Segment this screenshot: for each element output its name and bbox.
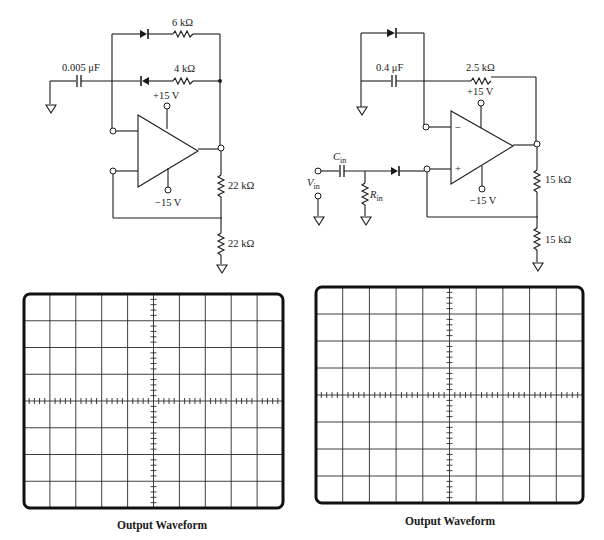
label-plus15-r: +15 V [467, 86, 494, 97]
diode-icon [387, 28, 396, 38]
right-circuit: 0.4 μF 2.5 kΩ − + +15 V −15 V 15 kΩ 15 k… [307, 28, 571, 271]
label-minus15-r: −15 V [470, 195, 497, 206]
label-rin: Rin [369, 189, 383, 203]
left-circuit: 6 kΩ 0.005 μF 4 kΩ +15 V −15 V [46, 17, 254, 273]
figure: 6 kΩ 0.005 μF 4 kΩ +15 V −15 V [0, 0, 604, 540]
resistor-15k-icon [534, 228, 540, 250]
label-plus15: +15 V [153, 90, 180, 101]
label-15k-top: 15 kΩ [545, 174, 571, 185]
caption-right: Output Waveform [405, 515, 496, 528]
inverting-sign: − [455, 122, 461, 133]
noninverting-sign: + [455, 163, 461, 174]
resistor-6k-icon [173, 31, 193, 37]
resistor-2k5-icon [471, 78, 491, 84]
ground-icon [217, 265, 227, 273]
label-2k5: 2.5 kΩ [466, 62, 495, 73]
resistor-15k-icon [534, 170, 540, 192]
label-15k-bottom: 15 kΩ [545, 234, 571, 245]
oscilloscope-grid-right [316, 287, 583, 503]
label-cin: Cin [333, 151, 346, 165]
ground-icon [46, 105, 56, 113]
resistor-rin-icon [362, 183, 368, 205]
label-cap-0005: 0.005 μF [62, 62, 100, 73]
diode-icon [391, 166, 399, 176]
label-22k-bottom: 22 kΩ [228, 238, 254, 249]
resistor-22k-icon [218, 175, 224, 197]
ground-icon [361, 217, 371, 225]
node-terminal [110, 128, 116, 134]
resistor-22k-icon [218, 233, 224, 255]
diode-icon [140, 29, 148, 39]
label-6k: 6 kΩ [172, 17, 193, 28]
ground-icon [357, 107, 367, 115]
vin-terminal [315, 168, 321, 174]
label-22k-top: 22 kΩ [228, 180, 254, 191]
caption-left: Output Waveform [117, 519, 208, 532]
label-4k: 4 kΩ [174, 63, 195, 74]
diode-icon [141, 76, 149, 86]
label-cap-04: 0.4 μF [376, 62, 403, 73]
label-vin: Vin [307, 177, 320, 191]
ground-icon [533, 263, 543, 271]
ground-icon [314, 217, 324, 225]
oscilloscope-grid-left [24, 294, 283, 508]
resistor-4k-icon [173, 78, 193, 84]
label-minus15: −15 V [155, 197, 182, 208]
